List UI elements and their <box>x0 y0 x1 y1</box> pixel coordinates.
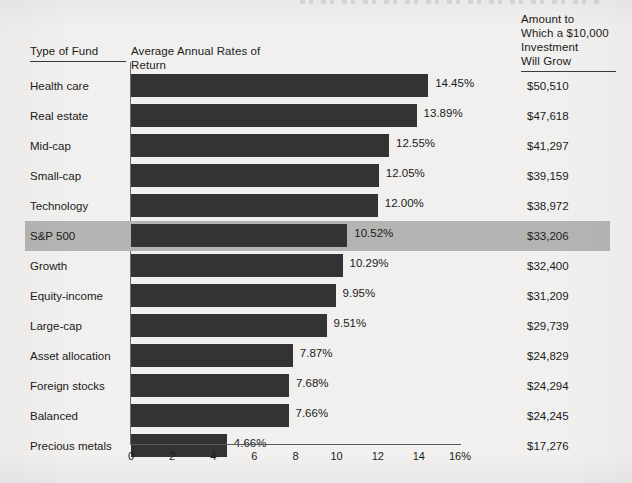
investment-growth-amount: $33,206 <box>527 229 569 243</box>
x-axis-tick: 8 <box>292 449 298 463</box>
rate-of-return-bar <box>131 224 347 247</box>
x-axis-tick: 0 <box>128 449 134 463</box>
x-axis-line <box>131 444 461 445</box>
rate-of-return-bar <box>131 134 389 157</box>
fund-name-label: Large-cap <box>30 319 82 333</box>
bar-value-label: 14.45% <box>435 76 474 90</box>
chart-row: Balanced7.66%$24,245 <box>0 401 632 431</box>
rate-of-return-bar <box>131 74 428 97</box>
chart-rows: Health care14.45%$50,510Real estate13.89… <box>0 71 632 461</box>
investment-growth-amount: $31,209 <box>527 289 569 303</box>
chart-row: Asset allocation7.87%$24,829 <box>0 341 632 371</box>
x-axis-tick: 2 <box>169 449 175 463</box>
bar-container <box>131 374 289 397</box>
fund-name-label: Asset allocation <box>30 349 111 363</box>
rate-of-return-bar <box>131 164 379 187</box>
chart-row: Small-cap12.05%$39,159 <box>0 161 632 191</box>
rate-of-return-bar <box>131 254 343 277</box>
bar-container <box>131 344 293 367</box>
bar-value-label: 7.66% <box>296 406 329 420</box>
bar-container <box>131 134 389 157</box>
chart-row: Mid-cap12.55%$41,297 <box>0 131 632 161</box>
rate-of-return-bar <box>131 344 293 367</box>
fund-name-label: Technology <box>30 199 88 213</box>
bar-container <box>131 164 379 187</box>
fund-name-label: Foreign stocks <box>30 379 105 393</box>
rate-of-return-bar <box>131 194 378 217</box>
fund-name-label: Balanced <box>30 409 78 423</box>
chart-row: Health care14.45%$50,510 <box>0 71 632 101</box>
bar-container <box>131 254 343 277</box>
column-header-type-of-fund: Type of Fund <box>30 44 126 62</box>
chart-row: S&P 50010.52%$33,206 <box>0 221 632 251</box>
investment-growth-amount: $50,510 <box>527 79 569 93</box>
fund-name-label: Health care <box>30 79 89 93</box>
x-axis-tick: 4 <box>210 449 216 463</box>
x-axis-tick: 14 <box>413 449 425 463</box>
investment-growth-amount: $24,294 <box>527 379 569 393</box>
investment-growth-amount: $32,400 <box>527 259 569 273</box>
column-header-amount-to-which-investment-will-grow: Amount to Which a $10,000 Investment Wil… <box>521 12 616 72</box>
bar-container <box>131 284 336 307</box>
bar-value-label: 12.00% <box>385 196 424 210</box>
chart-row: Technology12.00%$38,972 <box>0 191 632 221</box>
rate-of-return-bar <box>131 404 289 427</box>
fund-name-label: Small-cap <box>30 169 81 183</box>
bar-value-label: 9.95% <box>343 286 376 300</box>
chart-row: Equity-income9.95%$31,209 <box>0 281 632 311</box>
chart-row: Growth10.29%$32,400 <box>0 251 632 281</box>
bar-container <box>131 224 347 247</box>
rate-of-return-bar <box>131 104 417 127</box>
bar-value-label: 10.52% <box>354 226 393 240</box>
fund-name-label: Real estate <box>30 109 88 123</box>
x-axis-tick: 10 <box>331 449 343 463</box>
bar-value-label: 12.55% <box>396 136 435 150</box>
rate-of-return-bar <box>131 314 327 337</box>
cropped-text-sliver <box>300 0 600 4</box>
investment-growth-amount: $47,618 <box>527 109 569 123</box>
investment-growth-amount: $38,972 <box>527 199 569 213</box>
x-axis-tick-labels: 0246810121416% <box>0 449 632 467</box>
fund-name-label: Mid-cap <box>30 139 71 153</box>
bar-value-label: 13.89% <box>424 106 463 120</box>
bar-value-label: 4.66% <box>234 436 267 450</box>
x-axis-tick: 6 <box>251 449 257 463</box>
fund-name-label: Growth <box>30 259 67 273</box>
rate-of-return-bar <box>131 374 289 397</box>
bar-container <box>131 104 417 127</box>
chart-row: Foreign stocks7.68%$24,294 <box>0 371 632 401</box>
bar-container <box>131 194 378 217</box>
bar-value-label: 9.51% <box>334 316 367 330</box>
x-axis-tick: 12 <box>372 449 384 463</box>
x-axis-tick: 16% <box>449 449 471 463</box>
investment-growth-amount: $39,159 <box>527 169 569 183</box>
bar-container <box>131 314 327 337</box>
bar-value-label: 7.68% <box>296 376 329 390</box>
bar-value-label: 12.05% <box>386 166 425 180</box>
rate-of-return-bar <box>131 284 336 307</box>
bar-container <box>131 404 289 427</box>
chart-row: Large-cap9.51%$29,739 <box>0 311 632 341</box>
investment-growth-amount: $24,245 <box>527 409 569 423</box>
investment-growth-amount: $29,739 <box>527 319 569 333</box>
chart-row: Real estate13.89%$47,618 <box>0 101 632 131</box>
bar-container <box>131 74 428 97</box>
fund-name-label: S&P 500 <box>30 229 75 243</box>
fund-name-label: Equity-income <box>30 289 103 303</box>
bar-value-label: 7.87% <box>300 346 333 360</box>
bar-value-label: 10.29% <box>350 256 389 270</box>
chart-page: Type of Fund Average Annual Rates of Ret… <box>0 0 632 483</box>
investment-growth-amount: $41,297 <box>527 139 569 153</box>
investment-growth-amount: $24,829 <box>527 349 569 363</box>
